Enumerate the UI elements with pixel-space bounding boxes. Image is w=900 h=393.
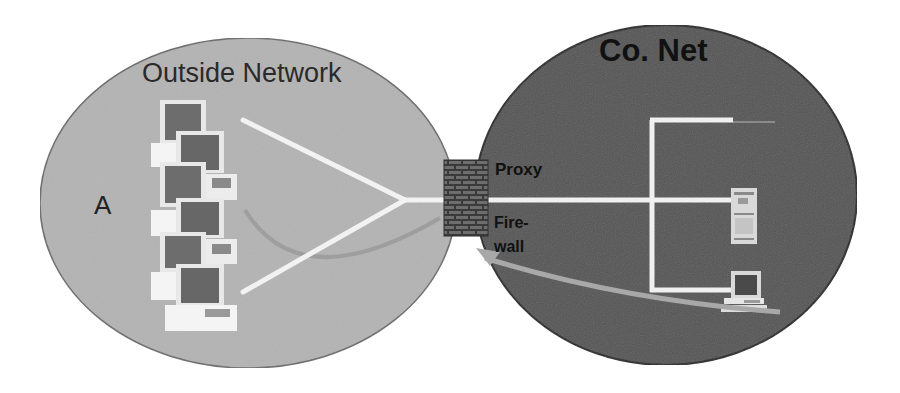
outside-network-title: Outside Network [142,60,342,87]
host-a-label: A [94,192,111,218]
network-diagram [0,0,900,393]
firewall-wall [444,160,488,236]
firewall-label: Fire- wall [494,211,529,259]
company-network-title: Co. Net [599,35,708,66]
proxy-label: Proxy [495,161,542,178]
firewall-label-line1: Fire- [494,211,529,235]
firewall-label-line2: wall [494,235,529,259]
computer-icon [176,264,224,306]
brick-wall-icon [444,160,488,236]
server-tower-icon [731,188,757,244]
keyboard-base-icon [165,305,237,331]
company-network-zone [475,25,857,365]
laptop-icon [206,239,237,264]
company-network-ellipse [475,25,857,365]
laptop-icon [206,174,237,200]
